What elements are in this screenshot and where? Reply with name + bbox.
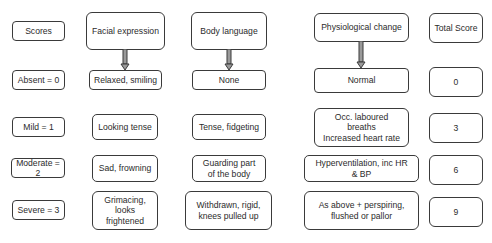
scores-header-label: Scores [25, 26, 52, 36]
total-absent: 0 [429, 67, 483, 97]
arrow-down-icon [355, 41, 367, 69]
body-severe-label: Withdrawn, rigid, knees pulled up [197, 200, 261, 221]
total-absent-label: 0 [454, 77, 459, 87]
facial-mild-label: Looking tense [98, 122, 152, 132]
body-header: Body language [191, 12, 267, 50]
score-mild-label: Mild = 1 [23, 122, 53, 132]
physio-severe-label: As above + perspiring, flushed or pallor [319, 200, 405, 221]
body-absent: None [192, 70, 266, 90]
facial-absent-label: Relaxed, smiling [94, 75, 157, 85]
score-absent-label: Absent = 0 [18, 75, 59, 85]
physio-moderate-label: Hyperventilation, inc HR & BP [315, 158, 407, 179]
total-moderate-label: 6 [454, 165, 459, 175]
facial-header: Facial expression [86, 12, 165, 50]
physio-moderate: Hyperventilation, inc HR & BP [304, 155, 419, 182]
body-header-label: Body language [200, 26, 257, 36]
facial-moderate-label: Sad, frowning [99, 163, 152, 173]
physio-absent-label: Normal [348, 75, 376, 85]
physio-severe: As above + perspiring, flushed or pallor [304, 191, 419, 230]
score-mild: Mild = 1 [12, 117, 65, 137]
total-moderate: 6 [429, 155, 483, 185]
total-mild: 3 [429, 113, 483, 143]
facial-severe-label: Grimacing, looks frightened [104, 195, 146, 226]
physio-header: Physiological change [314, 13, 409, 42]
total-header-label: Total Score [435, 23, 478, 33]
arrow-down-icon [119, 49, 131, 71]
scores-header: Scores [12, 21, 65, 41]
arrow-down-icon [223, 49, 235, 71]
facial-severe: Grimacing, looks frightened [92, 191, 158, 230]
body-absent-label: None [219, 75, 240, 85]
facial-moderate: Sad, frowning [92, 155, 158, 182]
body-mild-label: Tense, fidgeting [199, 122, 259, 132]
score-moderate: Moderate = 2 [11, 158, 65, 178]
total-header: Total Score [429, 13, 483, 43]
score-severe: Severe = 3 [12, 200, 65, 220]
body-mild: Tense, fidgeting [192, 114, 266, 140]
score-severe-label: Severe = 3 [18, 205, 60, 215]
physio-mild-label: Occ. laboured breaths Increased heart ra… [323, 112, 400, 143]
body-moderate-label: Guarding part of the body [203, 158, 256, 179]
total-severe-label: 9 [454, 207, 459, 217]
total-mild-label: 3 [454, 123, 459, 133]
physio-absent: Normal [314, 68, 409, 93]
total-severe: 9 [429, 197, 483, 227]
body-moderate: Guarding part of the body [192, 155, 266, 182]
facial-absent: Relaxed, smiling [89, 70, 162, 90]
physio-header-label: Physiological change [321, 22, 402, 32]
facial-mild: Looking tense [92, 114, 158, 140]
physio-mild: Occ. laboured breaths Increased heart ra… [314, 108, 409, 147]
facial-header-label: Facial expression [92, 26, 159, 36]
body-severe: Withdrawn, rigid, knees pulled up [185, 191, 272, 230]
score-moderate-label: Moderate = 2 [14, 158, 62, 179]
score-absent: Absent = 0 [12, 70, 65, 90]
